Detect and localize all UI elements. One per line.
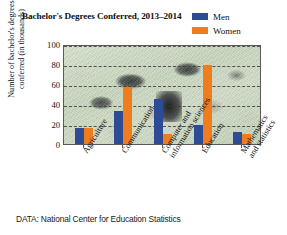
y-tick-label: 20 (38, 120, 60, 130)
chart-legend: Men Women (192, 10, 282, 38)
legend-swatch-men (192, 13, 208, 20)
legend-item-men: Men (192, 10, 282, 23)
bar-men (75, 128, 84, 144)
y-axis-title-line-2: conferred (in thousands) (17, 9, 26, 89)
legend-label-men: Men (213, 12, 230, 22)
y-tick-label: 60 (38, 80, 60, 90)
bar-men (233, 132, 242, 144)
legend-label-women: Women (213, 26, 241, 36)
y-tick-label: 40 (38, 100, 60, 110)
y-axis-tick-labels: 100806040200 (36, 45, 60, 145)
bar-men (114, 111, 123, 144)
y-tick-label: 100 (38, 40, 60, 50)
legend-item-women: Women (192, 24, 282, 37)
y-axis-title-line-1: Number of bachelor's degrees (7, 0, 16, 98)
bachelors-degrees-bar-chart: Bachelor's Degrees Conferred, 2013–2014 … (0, 0, 287, 235)
legend-swatch-women (192, 27, 208, 34)
y-axis-title: Number of bachelor's degrees conferred (… (4, 0, 30, 108)
source-note: DATA: National Center for Education Stat… (16, 214, 181, 224)
y-tick-label: 80 (38, 60, 60, 70)
bar-men (154, 99, 163, 144)
chart-title: Bachelor's Degrees Conferred, 2013–2014 (22, 11, 182, 21)
y-tick-label: 0 (38, 140, 60, 150)
